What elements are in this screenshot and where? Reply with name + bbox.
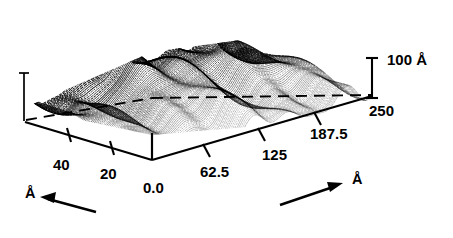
axis-label-origin: 0.0 — [143, 180, 164, 195]
axis-label-z-height: 100 Å — [387, 52, 427, 67]
axis-label-x-250: 250 — [369, 103, 394, 118]
axis-label-x-62-5: 62.5 — [200, 164, 229, 179]
axis-label-y-40: 40 — [53, 157, 70, 172]
surface-plot-canvas — [0, 0, 453, 238]
axis-label-y-20: 20 — [100, 166, 117, 181]
axis-label-x-125: 125 — [262, 147, 287, 162]
axis-label-x-187-5: 187.5 — [310, 126, 348, 141]
axis-unit-y: Å — [25, 186, 35, 201]
axis-unit-x: Å — [352, 172, 362, 187]
figure-3d-surface-plot: 0.0 62.5 125 187.5 250 20 40 100 Å Å Å — [0, 0, 453, 238]
